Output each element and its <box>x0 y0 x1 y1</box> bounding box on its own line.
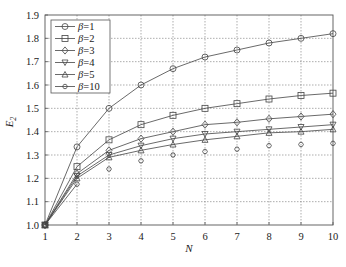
y-tick-label: 1.7 <box>26 56 39 67</box>
series-beta-2 <box>42 90 336 228</box>
y-tick-label: 1.9 <box>26 10 39 21</box>
legend-label-value: =10 <box>83 81 99 92</box>
x-tick-label: 5 <box>170 231 175 242</box>
series-line <box>45 125 333 225</box>
series-line <box>45 114 333 225</box>
x-tick-label: 7 <box>234 231 239 242</box>
legend-label: β=2 <box>77 33 94 44</box>
x-tick-label: 2 <box>74 231 79 242</box>
legend-label-value: =4 <box>83 57 95 68</box>
legend-label: β=1 <box>77 21 94 32</box>
chart: 123456789101.01.11.21.31.41.51.61.71.81.… <box>0 0 346 267</box>
y-axis-label-sub: 2 <box>9 117 18 121</box>
legend-label-value: =3 <box>83 45 94 56</box>
series-line <box>45 129 333 225</box>
y-tick-label: 1.5 <box>26 103 39 114</box>
y-tick-label: 1.0 <box>26 220 39 231</box>
legend-label-value: =1 <box>83 21 94 32</box>
legend-label-value: =2 <box>83 33 94 44</box>
y-tick-label: 1.4 <box>26 126 40 137</box>
y-tick-label: 1.2 <box>26 173 39 184</box>
legend-label-value: =5 <box>83 69 94 80</box>
x-axis-label: N <box>184 242 193 254</box>
legend-label: β=3 <box>77 45 94 56</box>
legend-label: β=4 <box>77 57 95 68</box>
x-tick-label: 9 <box>298 231 303 242</box>
y-tick-label: 1.8 <box>26 33 39 44</box>
x-tick-label: 8 <box>266 231 271 242</box>
legend-label: β=5 <box>77 69 94 80</box>
legend: β=1β=2β=3β=4β=5β=10 <box>51 20 110 93</box>
x-tick-label: 6 <box>202 231 207 242</box>
series-beta-10 <box>43 141 336 227</box>
series-beta-4 <box>42 122 336 228</box>
series-line <box>45 184 77 225</box>
y-axis-label: E2 <box>3 117 18 129</box>
series-beta-5 <box>42 126 336 227</box>
y-tick-label: 1.1 <box>26 196 39 207</box>
x-tick-label: 4 <box>138 231 144 242</box>
legend-label: β=10 <box>77 81 100 92</box>
x-tick-label: 1 <box>42 231 47 242</box>
y-tick-label: 1.6 <box>26 80 39 91</box>
x-tick-label: 10 <box>328 231 339 242</box>
series-line <box>45 93 333 225</box>
y-tick-label: 1.3 <box>26 150 39 161</box>
x-tick-label: 3 <box>106 231 111 242</box>
